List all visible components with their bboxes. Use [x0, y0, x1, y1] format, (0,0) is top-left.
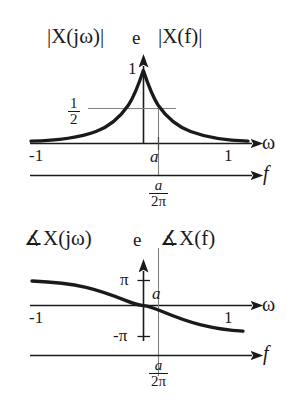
- phase-f-tick-denominator: 2π: [149, 373, 168, 389]
- phase-omega-tick-a: a: [152, 285, 161, 302]
- magnitude-omega-tick-a: a: [150, 148, 159, 165]
- phase-omega-axis-label: ω: [262, 294, 275, 314]
- phase-f-tick-numerator: a: [149, 358, 168, 373]
- magnitude-omega-tick-minus1: -1: [29, 147, 43, 164]
- magnitude-curve: [31, 71, 248, 142]
- phase-omega-tick-minus1: -1: [29, 309, 43, 326]
- magnitude-omega-axis-label: ω: [262, 132, 275, 152]
- magnitude-half-max-label: 1 2: [68, 96, 80, 128]
- phase-f-tick-a-over-2pi: a 2π: [149, 358, 168, 390]
- half-max-numerator: 1: [68, 96, 80, 111]
- magnitude-omega-tick-1: 1: [224, 147, 233, 164]
- phase-omega-tick-1: 1: [224, 309, 233, 326]
- phase-negative-pi-label: -π: [113, 327, 127, 344]
- half-max-denominator: 2: [68, 111, 80, 127]
- figure-container: |X(jω)| e |X(f)| ∡X(jω) e ∡X(f): [0, 0, 305, 414]
- magnitude-f-axis-label: f: [263, 163, 269, 183]
- magnitude-peak-label: 1: [128, 60, 137, 77]
- magnitude-f-tick-numerator: a: [149, 178, 168, 193]
- magnitude-f-tick-a-over-2pi: a 2π: [149, 178, 168, 210]
- phase-pi-label: π: [120, 271, 129, 288]
- phase-f-axis-label: f: [263, 343, 269, 363]
- magnitude-f-tick-denominator: 2π: [149, 193, 168, 209]
